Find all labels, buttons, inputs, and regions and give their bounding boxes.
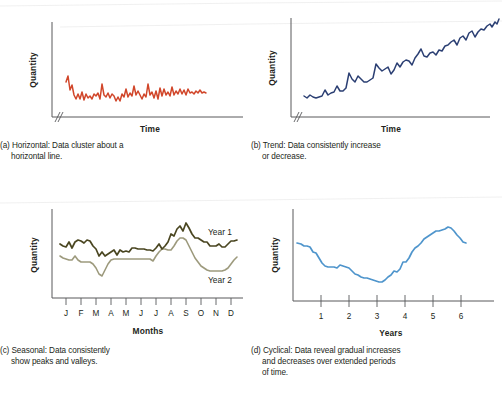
caption-line-1: (d) Cyclical: Data reveal gradual increa… — [251, 346, 401, 355]
x-tick-label: 4 — [403, 312, 408, 321]
page-artifact-line — [0, 3, 251, 6]
y-axis-label: Quantity — [270, 237, 280, 273]
x-axis-ticks — [66, 298, 231, 305]
y-axis-label: Quantity — [28, 52, 38, 88]
panel-caption-b: (b) Trend: Data consistently increaseor … — [251, 140, 381, 162]
x-axis-tick-labels: 1 2 3 4 5 6 — [319, 312, 464, 321]
x-tick-label: M — [123, 309, 130, 318]
x-tick-label: 2 — [347, 312, 352, 321]
series-horizontal-line — [66, 76, 206, 101]
x-tick-label: A — [108, 309, 114, 318]
panel-caption-d: (d) Cyclical: Data reveal gradual increa… — [251, 345, 401, 378]
x-tick-label: N — [213, 309, 219, 318]
y-axis-label: Quantity — [29, 237, 39, 273]
x-tick-label: 1 — [319, 312, 324, 321]
caption-line-2: show peaks and valleys. — [0, 356, 97, 367]
x-tick-label: 5 — [431, 312, 436, 321]
chart-horizontal: Quantity Time — [0, 0, 251, 140]
series-label-year2: Year 2 — [208, 275, 232, 285]
panel-cyclical: 1 2 3 4 5 6 Quantity Years (d) Cyclical:… — [251, 195, 502, 401]
x-tick-label: 3 — [375, 312, 380, 321]
x-tick-label: D — [228, 309, 234, 318]
x-axis-tick-labels: J F M A M J J A S O N D — [64, 309, 234, 318]
x-tick-label: F — [78, 309, 83, 318]
x-axis-label: Months — [133, 326, 164, 336]
x-tick-label: S — [183, 309, 189, 318]
caption-line-2: and decreases over extended periods — [251, 356, 396, 367]
series-cyclical-line — [297, 227, 466, 282]
x-axis-label: Time — [140, 124, 160, 134]
x-tick-label: J — [64, 309, 68, 318]
panel-caption-c: (c) Seasonal: Data consistentlyshow peak… — [0, 345, 110, 367]
caption-line-3: of time. — [251, 367, 288, 378]
x-tick-label: 6 — [459, 312, 464, 321]
x-tick-label: J — [154, 309, 158, 318]
page-artifact-line — [251, 197, 502, 200]
x-tick-label: A — [168, 309, 174, 318]
panel-seasonal: Year 1 Year 2 J F M A M J J A S O N D Qu… — [0, 195, 251, 401]
x-axis-label: Time — [381, 124, 401, 134]
page-artifact-line — [60, 24, 251, 27]
chart-seasonal: Year 1 Year 2 J F M A M J J A S O N D Qu… — [0, 195, 251, 345]
x-axis-label: Years — [379, 328, 402, 338]
time-series-patterns-figure: Quantity Time (a) Horizontal: Data clust… — [0, 0, 502, 401]
page-artifact-line — [0, 200, 251, 203]
x-tick-label: O — [198, 309, 204, 318]
panel-horizontal: Quantity Time (a) Horizontal: Data clust… — [0, 0, 251, 195]
chart-trend: Quantity Time — [251, 0, 502, 140]
chart-cyclical: 1 2 3 4 5 6 Quantity Years — [251, 195, 502, 345]
caption-line-1: (c) Seasonal: Data consistently — [0, 346, 110, 355]
series-year2-line — [60, 238, 237, 276]
caption-line-1: (b) Trend: Data consistently increase — [251, 141, 381, 150]
page-artifact-line — [251, 21, 502, 24]
x-tick-label: M — [93, 309, 100, 318]
panel-caption-a: (a) Horizontal: Data cluster about ahori… — [0, 140, 123, 162]
caption-line-1: (a) Horizontal: Data cluster about a — [0, 141, 123, 150]
x-tick-label: J — [139, 309, 143, 318]
series-label-year1: Year 1 — [208, 227, 232, 237]
panel-trend: Quantity Time (b) Trend: Data consistent… — [251, 0, 502, 195]
page-artifact-line — [251, 1, 502, 3]
series-trend-line — [304, 19, 499, 98]
y-axis-label: Quantity — [267, 50, 277, 86]
caption-line-2: horizontal line. — [0, 151, 62, 162]
caption-line-2: or decrease. — [251, 151, 306, 162]
